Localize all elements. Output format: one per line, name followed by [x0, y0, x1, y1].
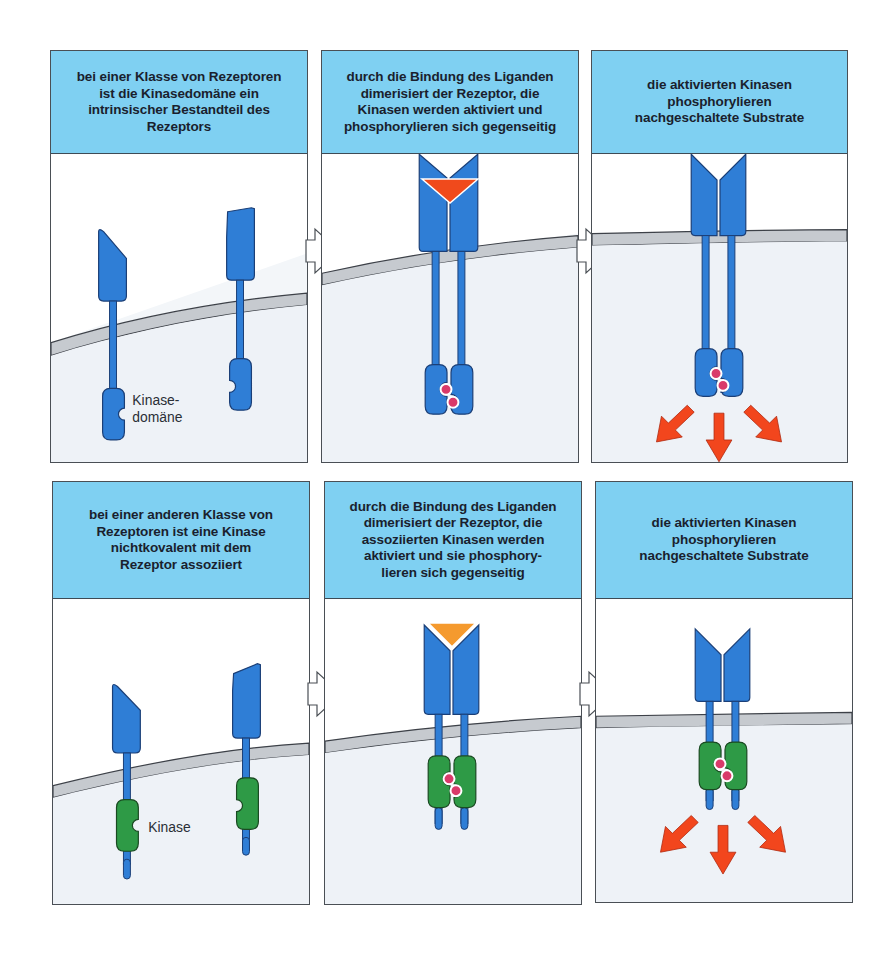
panel-bottom-3-substrate-phosphorylation: die aktivierten Kinasen phosphorylieren …	[595, 481, 853, 903]
kinase-domain-label-2: domäne	[132, 409, 182, 425]
panel-top-3-substrate-phosphorylation: die aktivierten Kinasen phosphorylieren …	[591, 50, 848, 463]
panel-header: die aktivierten Kinasen phosphorylieren …	[592, 51, 847, 154]
panel-caption: bei einer anderen Klasse von Rezeptoren …	[89, 507, 273, 573]
phosphate-icon	[444, 773, 455, 784]
panel-top-1-intrinsic-monomers: bei einer Klasse von Rezeptoren ist die …	[50, 50, 308, 463]
phosphate-icon	[448, 397, 459, 408]
kinase-label: Kinase	[148, 819, 191, 835]
ligand-triangle-red	[420, 177, 480, 205]
phosphate-icon	[711, 368, 722, 379]
panel-header: die aktivierten Kinasen phosphorylieren …	[596, 482, 852, 599]
kinase-domain-label: Kinase-	[132, 392, 179, 408]
receptor-monomers-illustration: Kinase- domäne	[51, 154, 307, 462]
panel-illustration	[596, 599, 852, 902]
panel-caption: die aktivierten Kinasen phosphorylieren …	[635, 77, 804, 127]
panel-header: bei einer Klasse von Rezeptoren ist die …	[51, 51, 307, 154]
panel-illustration: Kinase- domäne	[51, 154, 307, 462]
panel-illustration: Kinase	[53, 599, 309, 904]
phosphate-icon	[722, 770, 733, 781]
panel-bottom-2-ligand-dimerization: durch die Bindung des Liganden dimerisie…	[324, 481, 582, 905]
panel-caption: durch die Bindung des Liganden dimerisie…	[349, 499, 556, 582]
kinase-icon	[725, 742, 747, 790]
panel-caption: bei einer Klasse von Rezeptoren ist die …	[77, 69, 282, 135]
ligand-bound-associated-dimer-illustration	[325, 599, 581, 904]
phosphate-icon	[441, 384, 452, 395]
associated-kinase-monomers-illustration: Kinase	[53, 599, 309, 904]
panel-header: bei einer anderen Klasse von Rezeptoren …	[53, 482, 309, 599]
panel-top-2-ligand-dimerization: durch die Bindung des Liganden dimerisie…	[321, 50, 579, 463]
panel-header: durch die Bindung des Liganden dimerisie…	[325, 482, 581, 599]
active-dimer-signaling-illustration	[592, 154, 847, 462]
active-associated-dimer-signaling-illustration	[596, 599, 852, 902]
panel-illustration	[592, 154, 847, 462]
panel-caption: durch die Bindung des Liganden dimerisie…	[344, 69, 556, 135]
panel-bottom-1-associated-monomers: bei einer anderen Klasse von Rezeptoren …	[52, 481, 310, 905]
panel-illustration	[325, 599, 581, 904]
phosphate-icon	[718, 380, 729, 391]
panel-caption: die aktivierten Kinasen phosphorylieren …	[639, 515, 808, 565]
kinase-icon	[454, 756, 476, 808]
phosphate-icon	[451, 785, 462, 796]
panel-header: durch die Bindung des Liganden dimerisie…	[322, 51, 578, 154]
phosphate-icon	[715, 758, 726, 769]
